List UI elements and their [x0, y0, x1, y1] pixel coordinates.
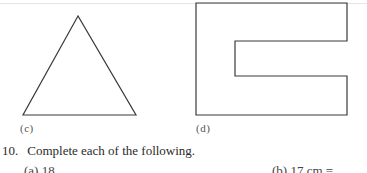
- triangle-figure-c: [23, 16, 136, 115]
- subpart-b: (b) 17 cm =: [272, 162, 333, 173]
- figure-label-d: (d): [196, 122, 210, 134]
- c-shape-figure-d: [196, 3, 347, 115]
- question-10: 10. Complete each of the following.: [2, 143, 195, 159]
- figure-label-c: (c): [20, 122, 34, 134]
- question-number: 10.: [2, 143, 24, 159]
- question-text: Complete each of the following.: [27, 143, 195, 158]
- subpart-a: (a) 18: [24, 162, 55, 173]
